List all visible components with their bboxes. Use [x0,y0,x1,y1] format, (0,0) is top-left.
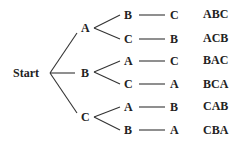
level1-node-a: A [81,22,90,34]
edge-start-a [50,33,77,73]
level2-node: A [124,101,133,113]
level2-node: B [124,124,132,136]
edge-b-c [94,72,120,84]
level2-node: C [124,78,133,90]
edge-c-a [94,107,120,117]
permutation-result: BAC [203,54,228,66]
level3-node: B [170,33,178,45]
level2-node: B [124,9,132,21]
level3-node: C [170,55,179,67]
permutation-result: ACB [203,32,228,44]
permutation-result: ABC [203,8,228,20]
permutation-result: CBA [203,124,228,136]
level3-node: A [170,124,179,136]
level3-node: B [170,101,178,113]
level2-node: C [124,33,133,45]
permutation-result: CAB [203,100,228,112]
edge-b-a [94,61,120,72]
permutation-tree-diagram: Start A B C B C A C A B C B C A B A ABC … [0,0,242,146]
root-node-start: Start [13,67,39,79]
level3-node: A [170,78,179,90]
edge-a-c [94,28,120,39]
edge-c-b [94,117,120,130]
edge-start-c [50,73,77,113]
level1-node-c: C [81,111,90,123]
edge-a-b [94,15,120,28]
level3-node: C [170,9,179,21]
level2-node: A [124,55,133,67]
level1-node-b: B [81,67,89,79]
permutation-result: BCA [203,78,228,90]
